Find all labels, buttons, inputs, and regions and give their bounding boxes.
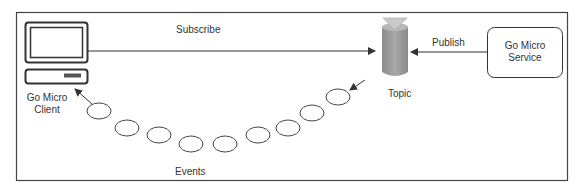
service-label-line1: Go Micro: [487, 40, 563, 52]
event-ellipse: [326, 89, 350, 105]
service-label-line2: Service: [487, 52, 563, 64]
diagram-frame: [17, 13, 568, 181]
event-ellipse: [179, 136, 203, 152]
client-label-line2: Client: [22, 104, 72, 116]
event-ellipse: [115, 120, 139, 136]
client-label: Go Micro Client: [22, 92, 72, 116]
database-cylinder-icon: [382, 18, 408, 76]
event-ellipse: [276, 120, 300, 136]
service-label: Go Micro Service: [487, 40, 563, 64]
diagram-canvas: [0, 0, 585, 194]
client-label-line1: Go Micro: [22, 92, 72, 104]
events-label: Events: [175, 166, 206, 178]
event-ellipse: [87, 103, 111, 119]
publish-label: Publish: [432, 37, 465, 49]
event-ellipse: [300, 105, 324, 121]
computer-icon: [26, 23, 88, 84]
topic-label: Topic: [388, 88, 411, 100]
event-ellipse: [213, 136, 237, 152]
event-ellipse: [246, 127, 270, 143]
subscribe-label: Subscribe: [176, 24, 220, 36]
event-ellipse: [147, 127, 171, 143]
